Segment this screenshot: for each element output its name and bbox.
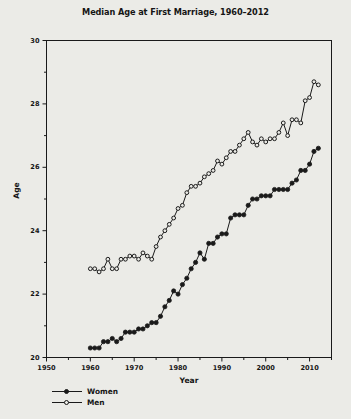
data-point — [110, 267, 114, 271]
data-point — [141, 327, 145, 331]
data-point — [124, 257, 128, 261]
data-point — [189, 184, 193, 188]
data-point — [242, 213, 246, 217]
data-point — [163, 305, 167, 309]
data-point — [110, 336, 114, 340]
data-point — [281, 121, 285, 125]
data-point — [159, 235, 163, 239]
x-tick-label: 1950 — [32, 364, 62, 372]
x-tick-label: 1980 — [163, 364, 193, 372]
data-point — [194, 184, 198, 188]
legend-item-men: Men — [52, 397, 118, 408]
data-point — [150, 321, 154, 325]
data-point — [307, 162, 311, 166]
y-tick-label: 24 — [20, 227, 40, 235]
data-point — [286, 134, 290, 138]
data-point — [185, 276, 189, 280]
data-point — [273, 137, 277, 141]
legend-swatch-men — [52, 397, 82, 408]
legend-label-men: Men — [87, 397, 105, 408]
x-tick-label: 1960 — [75, 364, 105, 372]
data-point — [277, 187, 281, 191]
data-point — [316, 83, 320, 87]
x-tick-label: 2010 — [295, 364, 325, 372]
data-point — [172, 216, 176, 220]
chart-legend: Women Men — [52, 386, 118, 408]
data-point — [299, 168, 303, 172]
x-tick-label: 1970 — [119, 364, 149, 372]
legend-item-women: Women — [52, 386, 118, 397]
data-point — [207, 241, 211, 245]
y-tick-label: 20 — [20, 354, 40, 362]
data-point — [181, 203, 185, 207]
data-point — [211, 241, 215, 245]
data-point — [220, 232, 224, 236]
data-point — [154, 245, 158, 249]
data-point — [224, 232, 228, 236]
data-point — [233, 213, 237, 217]
data-point — [281, 187, 285, 191]
x-tick-label: 2000 — [251, 364, 281, 372]
data-point — [299, 121, 303, 125]
data-point — [136, 327, 140, 331]
data-point — [277, 131, 281, 135]
y-tick-label: 30 — [20, 37, 40, 45]
data-point — [185, 191, 189, 195]
data-point — [158, 314, 162, 318]
data-point — [246, 131, 250, 135]
data-point — [132, 330, 136, 334]
data-point — [106, 340, 110, 344]
data-point — [268, 137, 272, 141]
data-point — [294, 178, 298, 182]
data-point — [202, 257, 206, 261]
data-point — [198, 251, 202, 255]
data-point — [132, 254, 136, 258]
data-point — [167, 222, 171, 226]
data-point — [264, 140, 268, 144]
data-point — [224, 156, 228, 160]
data-point — [128, 330, 132, 334]
data-point — [316, 146, 320, 150]
data-point — [255, 197, 259, 201]
data-point — [233, 150, 237, 154]
data-point — [172, 289, 176, 293]
data-point — [141, 251, 145, 255]
data-point — [145, 254, 149, 258]
data-point — [167, 298, 171, 302]
data-point — [128, 254, 132, 258]
data-point — [123, 330, 127, 334]
data-point — [290, 118, 294, 122]
data-point — [189, 267, 193, 271]
data-point — [216, 159, 220, 163]
data-point — [207, 172, 211, 176]
chart-figure: Median Age at First Marriage, 1960–2012 … — [0, 0, 351, 419]
plot-area — [0, 0, 351, 419]
data-point — [312, 80, 316, 84]
axes-frame — [47, 41, 332, 358]
data-point — [145, 324, 149, 328]
data-point — [137, 257, 141, 261]
data-point — [101, 340, 105, 344]
y-tick-label: 28 — [20, 100, 40, 108]
data-point — [259, 137, 263, 141]
data-point — [176, 292, 180, 296]
data-point — [215, 235, 219, 239]
data-point — [93, 346, 97, 350]
data-point — [102, 267, 106, 271]
y-tick-label: 26 — [20, 163, 40, 171]
data-point — [242, 137, 246, 141]
data-point — [88, 346, 92, 350]
series-men — [88, 80, 320, 274]
data-point — [119, 257, 123, 261]
data-point — [308, 96, 312, 100]
data-point — [229, 150, 233, 154]
data-point — [119, 336, 123, 340]
data-point — [229, 216, 233, 220]
data-point — [115, 340, 119, 344]
data-point — [211, 169, 215, 173]
data-point — [193, 260, 197, 264]
y-tick-label: 22 — [20, 290, 40, 298]
data-point — [272, 187, 276, 191]
legend-label-women: Women — [87, 386, 118, 397]
data-point — [303, 99, 307, 103]
